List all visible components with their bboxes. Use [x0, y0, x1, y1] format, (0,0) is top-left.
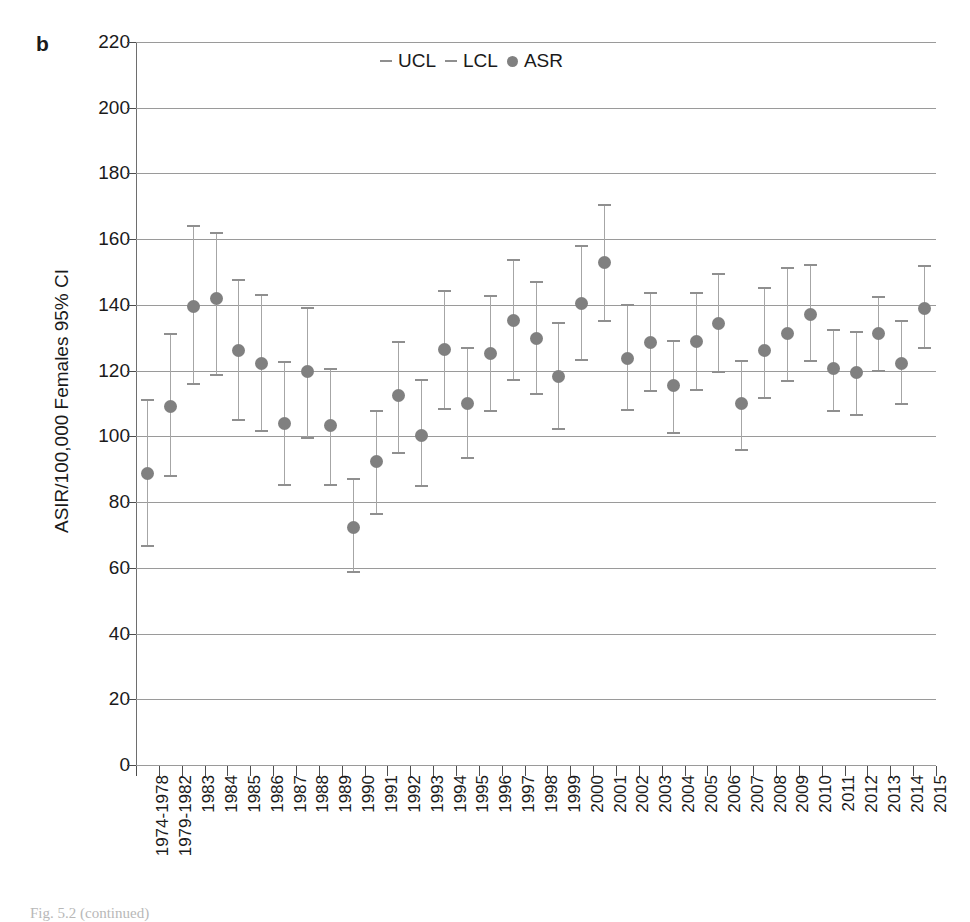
error-bar-cap-upper — [781, 267, 794, 269]
y-axis-tick-label: 140 — [68, 294, 130, 316]
x-axis-tick-label: 2005 — [702, 775, 722, 813]
asr-data-point — [507, 314, 520, 327]
asr-data-point — [735, 397, 748, 410]
asr-data-point — [347, 521, 360, 534]
error-bar-line — [787, 268, 788, 381]
asr-data-point — [690, 335, 703, 348]
error-bar-cap-lower — [827, 410, 840, 412]
error-bar-cap-upper — [712, 273, 725, 275]
y-axis-tick-mark — [127, 305, 136, 306]
y-axis-tick-label: 200 — [68, 97, 130, 119]
y-axis-tick-label: 160 — [68, 228, 130, 250]
y-axis-tick-mark — [127, 173, 136, 174]
y-axis-tick-mark — [127, 436, 136, 437]
asr-data-point — [712, 317, 725, 330]
y-axis-tick-mark — [127, 699, 136, 700]
gridline — [136, 239, 936, 240]
error-bar-cap-lower — [415, 485, 428, 487]
error-bar-cap-lower — [210, 374, 223, 376]
x-axis-tick-label: 2000 — [588, 775, 608, 813]
error-bar-cap-lower — [370, 513, 383, 515]
y-axis-tick-label: 120 — [68, 360, 130, 382]
error-bar-cap-upper — [210, 232, 223, 234]
error-bar-cap-upper — [370, 410, 383, 412]
asr-data-point — [232, 344, 245, 357]
y-axis-tick-labels: 020406080100120140160180200220 — [54, 42, 130, 765]
asr-data-point — [255, 357, 268, 370]
error-bar-cap-lower — [187, 383, 200, 385]
error-bar-cap-lower — [758, 397, 771, 399]
y-axis-tick-label: 80 — [68, 491, 130, 513]
asr-data-point — [781, 327, 794, 340]
asr-data-point — [895, 357, 908, 370]
figure-caption: Fig. 5.2 (continued) — [30, 905, 149, 922]
error-bar-line — [764, 288, 765, 398]
error-bar-cap-upper — [804, 264, 817, 266]
y-axis-tick-mark — [127, 371, 136, 372]
error-bar-cap-upper — [164, 333, 177, 335]
error-bar-cap-upper — [415, 379, 428, 381]
y-axis-tick-mark — [127, 568, 136, 569]
error-bar-cap-upper — [187, 225, 200, 227]
x-axis-tick-label: 1983 — [199, 775, 219, 813]
x-axis-tick-label: 1987 — [291, 775, 311, 813]
y-axis-tick-mark — [127, 502, 136, 503]
plot-area — [136, 42, 936, 765]
x-axis-tick-label: 2002 — [633, 775, 653, 813]
error-bar-cap-lower — [255, 430, 268, 432]
error-bar-cap-lower — [712, 371, 725, 373]
error-bar-cap-lower — [301, 437, 314, 439]
asr-data-point — [484, 347, 497, 360]
asr-data-point — [758, 344, 771, 357]
asr-data-point — [301, 365, 314, 378]
asr-data-point — [438, 343, 451, 356]
error-bar-cap-upper — [575, 245, 588, 247]
y-axis-tick-mark — [127, 765, 136, 766]
x-axis-tick-label: 1998 — [542, 775, 562, 813]
error-bar-cap-upper — [232, 279, 245, 281]
gridline — [136, 634, 936, 635]
y-axis-tick-mark — [127, 108, 136, 109]
error-bar-cap-lower — [530, 393, 543, 395]
error-bar-cap-lower — [278, 484, 291, 486]
error-bar-cap-upper — [918, 265, 931, 267]
asr-data-point — [370, 455, 383, 468]
error-bar-cap-upper — [690, 292, 703, 294]
error-bar-cap-upper — [735, 360, 748, 362]
error-bar-cap-upper — [301, 307, 314, 309]
error-bar-cap-lower — [781, 380, 794, 382]
asr-data-point — [461, 397, 474, 410]
x-axis-tick-label: 2011 — [839, 775, 859, 812]
x-axis-tick-label: 2015 — [931, 775, 951, 813]
error-bar-cap-lower — [644, 390, 657, 392]
x-axis-tick-label: 1988 — [313, 775, 333, 813]
x-axis-tick-label: 1991 — [382, 775, 402, 813]
error-bar-cap-lower — [164, 475, 177, 477]
gridline — [136, 173, 936, 174]
asr-data-point — [415, 429, 428, 442]
error-bar-cap-upper — [667, 340, 680, 342]
asr-data-point — [918, 302, 931, 315]
x-axis-tick-label: 1989 — [336, 775, 356, 813]
error-bar-cap-lower — [392, 452, 405, 454]
asr-data-point — [575, 297, 588, 310]
error-bar-cap-lower — [438, 408, 451, 410]
x-axis-tick-label: 1986 — [268, 775, 288, 813]
y-axis-tick-mark — [127, 239, 136, 240]
error-bar-cap-upper — [255, 294, 268, 296]
error-bar-cap-upper — [621, 304, 634, 306]
error-bar-cap-upper — [827, 329, 840, 331]
figure-panel-b: b ASIR/100,000 Females 95% CI UCL LCL AS… — [0, 0, 970, 922]
asr-data-point — [392, 389, 405, 402]
y-axis-tick-label: 20 — [68, 688, 130, 710]
y-axis-tick-label: 180 — [68, 162, 130, 184]
asr-data-point — [530, 332, 543, 345]
error-bar-cap-upper — [347, 478, 360, 480]
error-bar-cap-upper — [438, 290, 451, 292]
x-axis-tick-label: 2004 — [679, 775, 699, 813]
x-axis-tick-label: 2009 — [793, 775, 813, 813]
error-bar-cap-upper — [872, 296, 885, 298]
asr-data-point — [667, 379, 680, 392]
gridline — [136, 699, 936, 700]
error-bar-cap-lower — [850, 414, 863, 416]
